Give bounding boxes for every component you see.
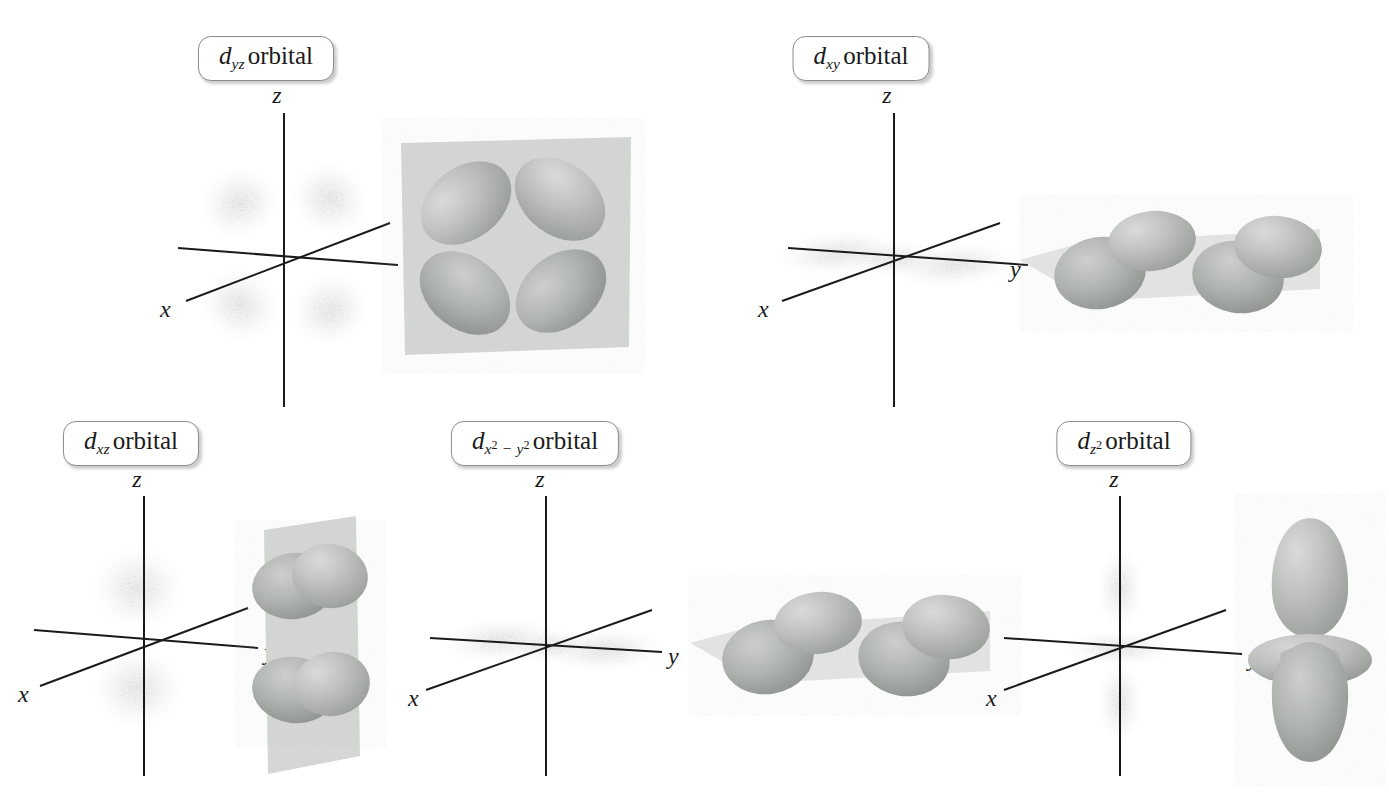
axis-label-x: x (757, 296, 769, 322)
axis-label-x: x (985, 685, 997, 711)
orbital-label-dxy-word: orbital (843, 42, 908, 69)
axis-label-x: x (159, 296, 171, 322)
orbital-label-dx2y2-symbol: d (472, 427, 485, 454)
orbital-render-dx2y2 (690, 565, 990, 725)
orbital-render-dz2 (1238, 500, 1383, 780)
orbital-label-dyz-subscript: yz (231, 55, 244, 72)
orbital-label-dx2y2-word: orbital (533, 427, 598, 454)
axis-label-z: z (881, 82, 892, 108)
orbital-label-dyz-word: orbital (248, 42, 313, 69)
orbital-label-dz2-word: orbital (1105, 427, 1170, 454)
axis-label-z: z (1108, 466, 1119, 492)
orbital-label-dxz: dxzorbital (63, 421, 199, 466)
orbital-label-dyz: dyzorbital (198, 36, 334, 81)
orbital-render-dxy (1020, 185, 1320, 345)
orbital-render-dxz (248, 498, 438, 783)
orbital-label-dx2y2-subscript: x2 − y2 (484, 440, 529, 457)
axis-label-z: z (271, 82, 282, 108)
orbital-label-dz2-symbol: d (1077, 427, 1090, 454)
axes-diagram-dxy: z y x (760, 105, 1040, 415)
axis-label-z: z (534, 466, 545, 492)
nodal-plane-dyz (401, 137, 631, 355)
orbital-label-dz2-subscript: z2 (1090, 440, 1102, 457)
axis-label-x: x (407, 685, 419, 711)
orbital-label-dxy: dxyorbital (793, 36, 930, 81)
orbital-label-dxz-symbol: d (84, 427, 97, 454)
orbital-label-dxy-symbol: d (814, 42, 827, 69)
orbital-lobes-dz2 (1248, 518, 1372, 762)
lobe-lower-dz2 (1272, 642, 1348, 762)
axes-diagram-dyz: z y x (150, 105, 430, 415)
orbital-label-dxz-subscript: xz (96, 440, 109, 457)
axis-label-z: z (131, 466, 142, 492)
orbital-label-dz2: dz2orbital (1056, 421, 1191, 466)
lobe-upper-dz2 (1272, 518, 1348, 638)
orbital-label-dxz-word: orbital (113, 427, 178, 454)
orbital-label-dxy-subscript: xy (826, 55, 840, 72)
d-orbital-figure: dyzorbital z y x dxyorbital (0, 0, 1389, 794)
axis-label-x: x (17, 681, 29, 707)
orbital-label-dx2y2: dx2 − y2orbital (451, 421, 619, 466)
axes-diagram-dx2y2: z y x (430, 490, 700, 780)
orbital-render-dyz (393, 133, 638, 373)
axis-label-y: y (666, 643, 679, 669)
orbital-label-dyz-symbol: d (219, 42, 232, 69)
